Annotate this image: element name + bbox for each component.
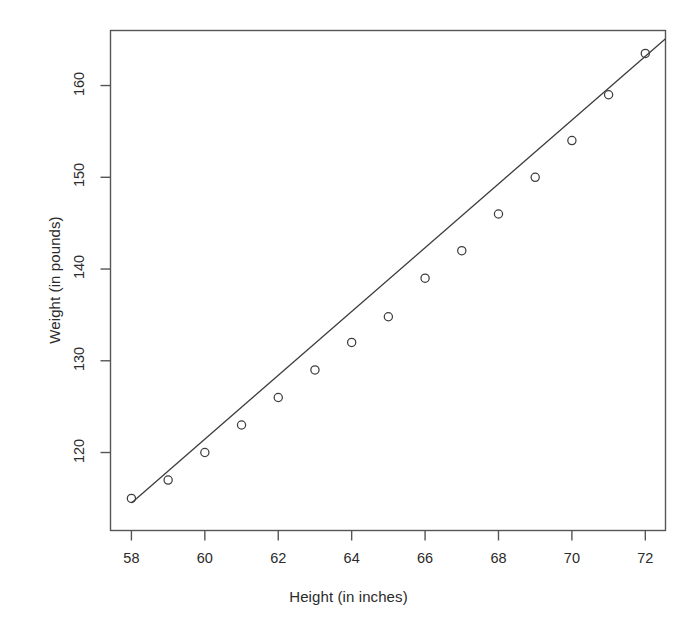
data-point-marker xyxy=(348,338,356,346)
data-point-marker xyxy=(237,421,245,429)
data-point-marker xyxy=(421,274,429,282)
y-tick-label-text: 120 xyxy=(71,438,87,462)
data-point-marker xyxy=(458,247,466,255)
data-point-marker xyxy=(274,393,282,401)
data-point-marker xyxy=(605,91,613,99)
y-tick-label-text: 150 xyxy=(71,163,87,187)
y-tick-label-text: 130 xyxy=(71,347,87,371)
data-point-marker xyxy=(568,136,576,144)
y-tick-label-text: 160 xyxy=(71,71,87,95)
data-point-marker xyxy=(201,448,209,456)
x-tick-label: 68 xyxy=(490,550,506,566)
x-tick-label: 72 xyxy=(637,550,653,566)
x-tick-label: 58 xyxy=(123,550,139,566)
data-point-marker xyxy=(384,313,392,321)
x-tick-label: 62 xyxy=(270,550,286,566)
x-tick-label: 70 xyxy=(564,550,580,566)
data-point-marker xyxy=(531,173,539,181)
trendline-segment xyxy=(131,39,665,503)
x-tick-label: 60 xyxy=(197,550,213,566)
regression-line xyxy=(131,39,665,503)
y-tick-label: 160 xyxy=(65,76,95,92)
scatter-plot-figure: Height (in inches) Weight (in pounds) 58… xyxy=(0,0,697,629)
y-tick-label: 140 xyxy=(65,259,95,275)
data-point-marker xyxy=(311,366,319,374)
y-axis-ticks xyxy=(101,86,111,453)
x-tick-label: 66 xyxy=(417,550,433,566)
data-points xyxy=(127,49,649,502)
data-point-marker xyxy=(127,494,135,502)
y-axis-title: Weight (in pounds) xyxy=(46,0,63,560)
y-tick-label-text: 140 xyxy=(71,255,87,279)
data-point-marker xyxy=(164,476,172,484)
y-tick-label: 130 xyxy=(65,351,95,367)
data-point-marker xyxy=(494,210,502,218)
y-tick-label: 150 xyxy=(65,167,95,183)
plot-canvas xyxy=(0,0,697,629)
y-tick-label: 120 xyxy=(65,443,95,459)
x-axis-title: Height (in inches) xyxy=(0,588,697,605)
x-tick-label: 64 xyxy=(344,550,360,566)
x-axis-ticks xyxy=(131,531,645,541)
